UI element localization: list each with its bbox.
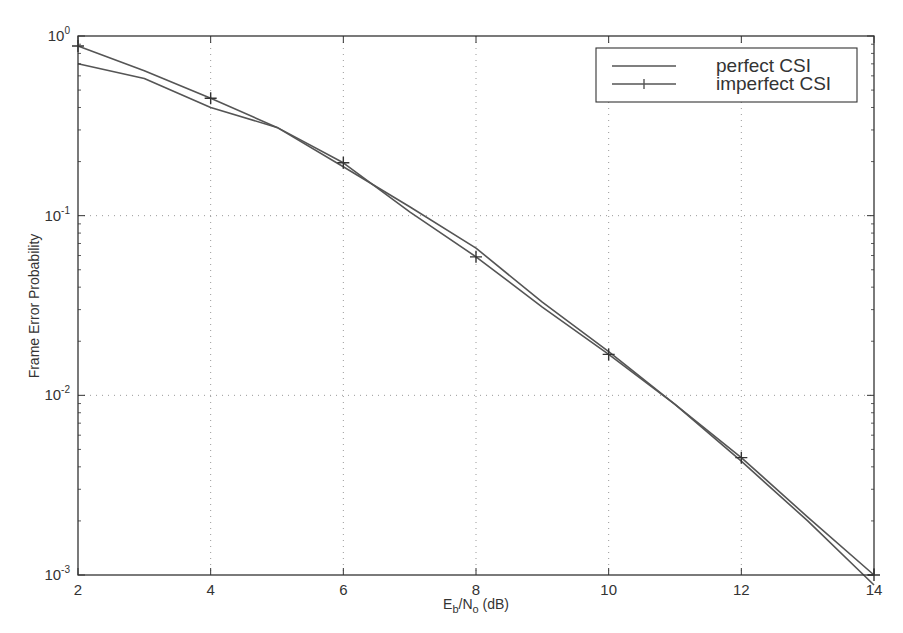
frame-error-chart: 2468101214 10010-110-210-3 Eb/No (dB) Fr… — [0, 0, 903, 633]
plus-marker-icon — [337, 157, 349, 169]
y-tick-label: 10-1 — [44, 205, 70, 224]
plus-marker-icon — [603, 348, 615, 360]
x-axis-label: Eb/No (dB) — [443, 596, 509, 615]
x-tick-label: 10 — [600, 581, 617, 598]
y-tick-labels: 10010-110-210-3 — [44, 25, 70, 583]
legend-label-imperfect-csi: imperfect CSI — [716, 73, 831, 94]
legend: perfect CSI imperfect CSI — [596, 48, 857, 102]
y-tick-label: 100 — [48, 25, 71, 44]
plus-marker-icon — [205, 92, 217, 104]
x-tick-label: 14 — [866, 581, 883, 598]
grid-lines — [78, 36, 874, 575]
x-tick-label: 4 — [206, 581, 214, 598]
x-tick-label: 6 — [339, 581, 347, 598]
plot-area-frame — [78, 36, 874, 575]
plus-marker-icon — [470, 251, 482, 263]
y-tick-label: 10-2 — [44, 384, 70, 403]
axis-ticks — [78, 36, 874, 575]
y-axis-label: Frame Error Probability — [26, 234, 42, 379]
y-tick-label: 10-3 — [44, 564, 70, 583]
x-tick-label: 2 — [74, 581, 82, 598]
x-tick-label: 12 — [733, 581, 750, 598]
series-line-imperfect-csi — [78, 46, 874, 575]
